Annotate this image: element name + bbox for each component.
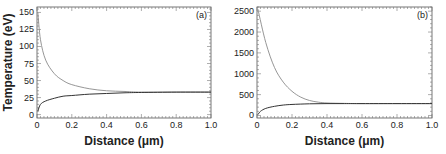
y-tick-label: 0 [29, 110, 34, 120]
panel-label: (a) [196, 10, 207, 20]
x-tick-label: 0.8 [170, 120, 183, 130]
y-axis-label: Temperature (eV) [1, 14, 15, 112]
series-upper-line [38, 12, 211, 92]
y-tick-label: 2000 [234, 27, 254, 37]
y-tick-label: 75 [24, 59, 34, 69]
x-tick-label: 0.2 [286, 120, 299, 130]
x-tick-label: 0 [254, 120, 259, 130]
x-axis-label: Distance (μm) [84, 134, 163, 148]
y-tick-label: 1500 [234, 48, 254, 58]
chart-panel-b: 00.20.40.60.81.005001000150020002500Dist… [234, 6, 438, 148]
plot-frame [37, 7, 211, 118]
y-tick-label: 1000 [234, 69, 254, 79]
y-tick-label: 25 [24, 93, 34, 103]
series-upper-line [258, 9, 432, 104]
y-tick-label: 0 [249, 110, 254, 120]
y-tick-label: 500 [239, 90, 254, 100]
x-tick-label: 0.6 [135, 120, 148, 130]
panel-label: (b) [417, 10, 428, 20]
chart-panel-a: 00.20.40.60.81.00255075100125150Distance… [1, 7, 217, 148]
x-tick-label: 0 [34, 120, 39, 130]
x-tick-label: 0.6 [356, 120, 369, 130]
y-tick-label: 150 [19, 7, 34, 17]
series-lower-line [38, 92, 211, 111]
x-axis-label: Distance (μm) [305, 134, 384, 148]
y-tick-label: 2500 [234, 6, 254, 16]
x-tick-label: 0.8 [391, 120, 404, 130]
series-lower-line [258, 104, 432, 115]
y-tick-label: 50 [24, 76, 34, 86]
x-tick-label: 0.4 [100, 120, 113, 130]
x-tick-label: 1.0 [205, 120, 218, 130]
x-tick-label: 1.0 [426, 120, 439, 130]
plot-frame [257, 7, 432, 118]
y-tick-label: 100 [19, 41, 34, 51]
y-tick-label: 125 [19, 24, 34, 34]
chart-figure: 00.20.40.60.81.00255075100125150Distance… [0, 0, 446, 154]
x-tick-label: 0.2 [66, 120, 79, 130]
x-tick-label: 0.4 [321, 120, 334, 130]
